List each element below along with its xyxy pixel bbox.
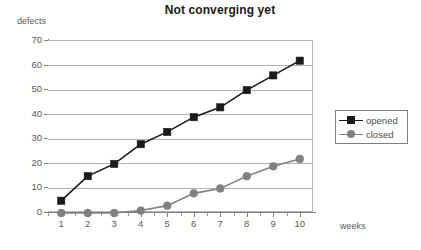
legend-item-closed[interactable]: closed: [339, 127, 393, 141]
x-minor-tick: [128, 213, 129, 216]
legend-label-opened: opened: [366, 115, 398, 126]
x-tick-label: 1: [51, 218, 71, 229]
chart-container: Not converging yet defects weeks 0102030…: [0, 0, 421, 250]
x-tick-label: 8: [237, 218, 257, 229]
x-minor-tick: [154, 213, 155, 216]
plot-area: [48, 40, 313, 212]
x-minor-tick: [181, 213, 182, 216]
x-tick-label: 9: [263, 218, 283, 229]
y-tick-label: 10: [16, 182, 42, 192]
data-point-closed: [163, 202, 171, 210]
series-line-opened: [61, 61, 300, 201]
data-point-opened: [84, 173, 91, 180]
legend-label-closed: closed: [366, 129, 393, 140]
x-minor-tick: [260, 213, 261, 216]
data-point-closed: [190, 189, 198, 197]
x-axis-title: weeks: [340, 221, 366, 231]
data-point-opened: [111, 160, 118, 167]
x-tick-label: 3: [104, 218, 124, 229]
data-point-opened: [296, 57, 303, 64]
data-point-opened: [217, 104, 224, 111]
data-point-closed: [269, 162, 277, 170]
x-tick-label: 4: [131, 218, 151, 229]
y-axis-title: defects: [17, 16, 46, 26]
series-line-closed: [61, 159, 300, 213]
y-tick-label: 0: [16, 207, 42, 217]
data-point-closed: [110, 209, 118, 217]
x-tick-mark: [167, 213, 168, 217]
x-tick-label: 5: [157, 218, 177, 229]
x-tick-mark: [300, 213, 301, 217]
x-minor-tick: [48, 213, 49, 216]
data-point-opened: [270, 72, 277, 79]
x-tick-label: 7: [210, 218, 230, 229]
x-tick-mark: [273, 213, 274, 217]
legend-square-opened-icon: [347, 116, 355, 124]
y-tick-label: 20: [16, 158, 42, 168]
x-tick-label: 10: [290, 218, 310, 229]
data-point-closed: [296, 155, 304, 163]
data-point-opened: [58, 197, 65, 204]
data-point-opened: [243, 87, 250, 94]
y-tick-label: 40: [16, 109, 42, 119]
data-point-opened: [190, 114, 197, 121]
data-point-closed: [84, 209, 92, 217]
chart-title: Not converging yet: [120, 3, 320, 17]
x-tick-mark: [220, 213, 221, 217]
data-point-closed: [243, 172, 251, 180]
data-point-opened: [164, 128, 171, 135]
data-point-closed: [216, 185, 224, 193]
x-minor-tick: [234, 213, 235, 216]
chart-legend: opened closed: [335, 110, 408, 144]
data-point-opened: [137, 141, 144, 148]
y-tick-label: 60: [16, 60, 42, 70]
y-tick-label: 70: [16, 35, 42, 45]
x-minor-tick: [287, 213, 288, 216]
x-tick-mark: [247, 213, 248, 217]
x-tick-label: 2: [78, 218, 98, 229]
y-tick-label: 50: [16, 84, 42, 94]
y-tick-label: 30: [16, 133, 42, 143]
legend-marker-opened-icon: [339, 114, 363, 126]
legend-circle-closed-icon: [347, 130, 355, 138]
plot-svg: [48, 41, 313, 213]
legend-item-opened[interactable]: opened: [339, 113, 398, 127]
data-point-closed: [137, 207, 145, 215]
x-tick-label: 6: [184, 218, 204, 229]
x-tick-mark: [194, 213, 195, 217]
x-minor-tick: [207, 213, 208, 216]
legend-marker-closed-icon: [339, 128, 363, 140]
data-point-closed: [57, 209, 65, 217]
